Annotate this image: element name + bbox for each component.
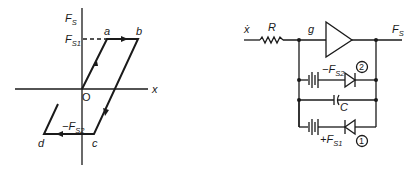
junction-dot	[374, 38, 378, 42]
branch1-source-label: +FS1	[320, 133, 342, 148]
arrow-right-icon	[121, 36, 128, 42]
amplifier-icon	[326, 22, 352, 57]
junction-dot	[297, 38, 301, 42]
capacitor-branch: C	[299, 95, 376, 113]
y-axis-label: FS	[65, 12, 77, 27]
diode-icon	[345, 73, 355, 87]
branch-2: −FS2 2	[299, 62, 376, 89]
resistor-icon	[260, 37, 283, 43]
capacitor-label: C	[340, 101, 348, 113]
diode-icon	[345, 120, 355, 134]
origin-label: O	[82, 91, 91, 103]
hysteresis-loop	[44, 39, 138, 134]
point-a-label: a	[104, 25, 110, 37]
output-label: FS	[392, 23, 404, 38]
branch2-source-label: −FS2	[322, 63, 345, 78]
point-d-label: d	[38, 137, 45, 149]
upper-level-label: FS1	[65, 33, 81, 48]
branch1-number: 1	[359, 136, 364, 146]
point-c-label: c	[92, 137, 98, 149]
hysteresis-graph: FS x O FS1 a b c d −FS2	[15, 8, 158, 165]
hysteresis-figure: FS x O FS1 a b c d −FS2 ẋ R g FS	[0, 0, 417, 171]
battery-icon	[309, 72, 318, 88]
x-axis-label: x	[151, 83, 158, 95]
input-label: ẋ	[243, 23, 250, 35]
branch-1: +FS1 1	[299, 100, 376, 148]
resistor-label: R	[268, 21, 276, 33]
branch2-number: 2	[359, 62, 364, 72]
battery-icon	[309, 119, 318, 135]
analog-circuit: ẋ R g FS	[243, 21, 404, 148]
point-b-label: b	[136, 25, 142, 37]
node-g-label: g	[308, 23, 315, 35]
